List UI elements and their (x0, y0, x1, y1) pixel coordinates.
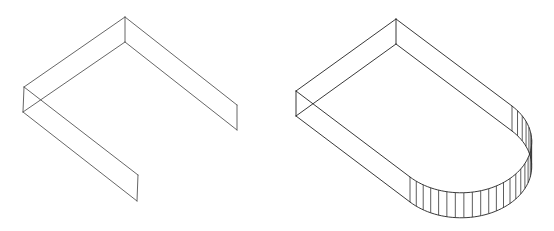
open-u-channel-figure (23, 17, 237, 201)
rounded-wall-figure (296, 19, 532, 218)
bottom-edge-back-right (125, 42, 237, 130)
bottom-edge-left-front (296, 116, 410, 202)
top-edge-back-right (396, 19, 512, 106)
vertical-edge-front-end (137, 175, 138, 201)
vertical-edge-corner-left (23, 87, 24, 112)
arc-top-edge (410, 106, 532, 193)
diagram-canvas (0, 0, 554, 231)
top-edge-back-right (125, 17, 237, 105)
bottom-edge-left-front (23, 112, 137, 201)
bottom-edge-back-right (396, 44, 512, 131)
top-edge-left-front (24, 87, 138, 175)
arc-bottom-edge (410, 131, 532, 218)
